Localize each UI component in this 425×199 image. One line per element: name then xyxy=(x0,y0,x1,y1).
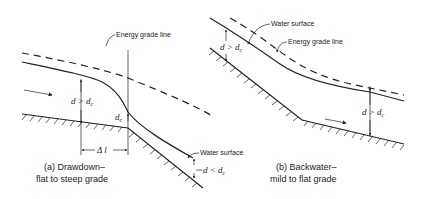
leader-water-surface-b xyxy=(248,24,270,44)
label-energy-grade-line-a: Energy grade line xyxy=(116,31,171,39)
label-depth-upstream-b: d > dc xyxy=(220,42,243,53)
leader-energy-grade-b xyxy=(277,42,287,52)
label-critical-depth-a: dc xyxy=(115,112,123,123)
leader-energy-grade-a xyxy=(106,35,115,46)
water-surface-a xyxy=(22,62,193,158)
label-depth-downstream-b: d > dc xyxy=(362,107,385,118)
flow-direction-arrow-a xyxy=(24,90,52,95)
figure-canvas: d > dc dc Δ l Energy grade line Water su… xyxy=(0,0,425,199)
caption-b-line1: (b) Backwater– xyxy=(276,162,337,172)
label-depth-upstream-a: d > dc xyxy=(71,96,94,107)
ground-hatching-b xyxy=(209,51,404,150)
label-water-surface-b: Water surface xyxy=(271,20,314,27)
label-water-surface-a: Water surface xyxy=(200,149,243,156)
figure-b-backwater: d > dc d > dc Water surface Energy grade… xyxy=(209,18,404,184)
water-surface-b xyxy=(210,18,404,101)
figure-a-drawdown: d > dc dc Δ l Energy grade line Water su… xyxy=(22,31,243,188)
label-delta-l: Δ l xyxy=(96,145,107,155)
caption-a-line1: (a) Drawdown– xyxy=(44,162,105,172)
flow-direction-arrow-b xyxy=(325,119,346,123)
caption-a-line2: flat to steep grade xyxy=(36,174,108,184)
label-depth-downstream-a: d < dc xyxy=(203,165,226,176)
caption-b-line2: mild to flat grade xyxy=(270,174,337,184)
energy-grade-line-a xyxy=(22,53,212,116)
channel-bed-b xyxy=(210,48,404,144)
label-energy-grade-line-b: Energy grade line xyxy=(288,38,343,46)
